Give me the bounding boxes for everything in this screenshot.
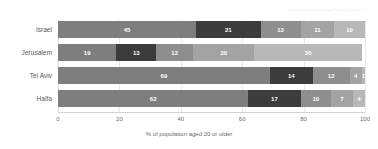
bar-segment: 20 — [193, 44, 254, 61]
bar-segment: 19 — [58, 44, 116, 61]
category-label: Haifa — [0, 90, 52, 107]
bar-segment: 10 — [301, 90, 332, 107]
bar-row: 69141241 — [58, 67, 365, 84]
bar-segment-label: 21 — [225, 27, 232, 33]
bar-segment: 13 — [261, 21, 301, 38]
category-label: Tel Aviv — [0, 67, 52, 84]
plot-area: 452113111019131220356914124162171074 — [58, 20, 365, 112]
bar-segment: 35 — [254, 44, 361, 61]
x-tick-label: 0 — [56, 116, 59, 122]
x-tick-label: 20 — [116, 116, 123, 122]
stacked-bar-chart: Jerusalem Institute for Policy Research … — [0, 0, 378, 149]
bar-segment: 12 — [313, 67, 350, 84]
attribution-text: Jerusalem Institute for Policy Research — [288, 7, 366, 12]
bar-segment-label: 62 — [150, 96, 157, 102]
x-axis-title: % of population aged 20 or older — [0, 131, 378, 137]
bar-segment: 45 — [58, 21, 196, 38]
x-tick-label: 60 — [239, 116, 246, 122]
x-tick-label: 40 — [177, 116, 184, 122]
bar-segment-label: 20 — [220, 50, 227, 56]
bar-segment-label: 11 — [314, 27, 320, 33]
bar-segment-label: 12 — [328, 73, 335, 79]
bar-row: 4521131110 — [58, 21, 365, 38]
bar-segment: 7 — [331, 90, 352, 107]
category-axis: IsraelJerusalemTel AvivHaifa — [0, 20, 58, 112]
bar-segment: 13 — [116, 44, 156, 61]
bar-segment: 14 — [270, 67, 313, 84]
bar-segment-label: 35 — [305, 50, 312, 56]
bar-segment: 11 — [301, 21, 335, 38]
bar-segment-label: 19 — [84, 50, 91, 56]
bar-segment-label: 13 — [277, 27, 284, 33]
bar-segment-label: 4 — [354, 73, 357, 79]
bar-segment-label: 12 — [171, 50, 178, 56]
category-label: Israel — [0, 21, 52, 38]
bar-segment: 17 — [248, 90, 300, 107]
bar-segment-label: 69 — [161, 73, 168, 79]
bar-segment: 1 — [362, 67, 365, 84]
bar-segment-label: 1 — [362, 73, 365, 79]
x-tick-label: 80 — [300, 116, 307, 122]
bar-segment-label: 45 — [124, 27, 131, 33]
bar-segment-label: 10 — [346, 27, 353, 33]
bar-segment-label: 10 — [313, 96, 320, 102]
gridline — [365, 20, 366, 112]
bar-segment: 10 — [334, 21, 365, 38]
bar-segment-label: 17 — [271, 96, 278, 102]
bar-segment: 69 — [58, 67, 270, 84]
bar-segment: 21 — [196, 21, 260, 38]
x-tick-label: 100 — [360, 116, 370, 122]
x-axis-line — [58, 112, 365, 113]
bar-row: 1913122035 — [58, 44, 365, 61]
bar-segment: 4 — [350, 67, 362, 84]
bar-segment-label: 14 — [288, 73, 295, 79]
bar-segment: 62 — [58, 90, 248, 107]
x-axis: 020406080100 — [58, 112, 365, 126]
bar-segment: 12 — [156, 44, 193, 61]
bar-row: 62171074 — [58, 90, 365, 107]
category-label: Jerusalem — [0, 44, 52, 61]
bar-segment-label: 13 — [133, 50, 140, 56]
bar-segment-label: 4 — [357, 96, 360, 102]
bar-segment-label: 7 — [340, 96, 343, 102]
bar-segment: 4 — [353, 90, 365, 107]
